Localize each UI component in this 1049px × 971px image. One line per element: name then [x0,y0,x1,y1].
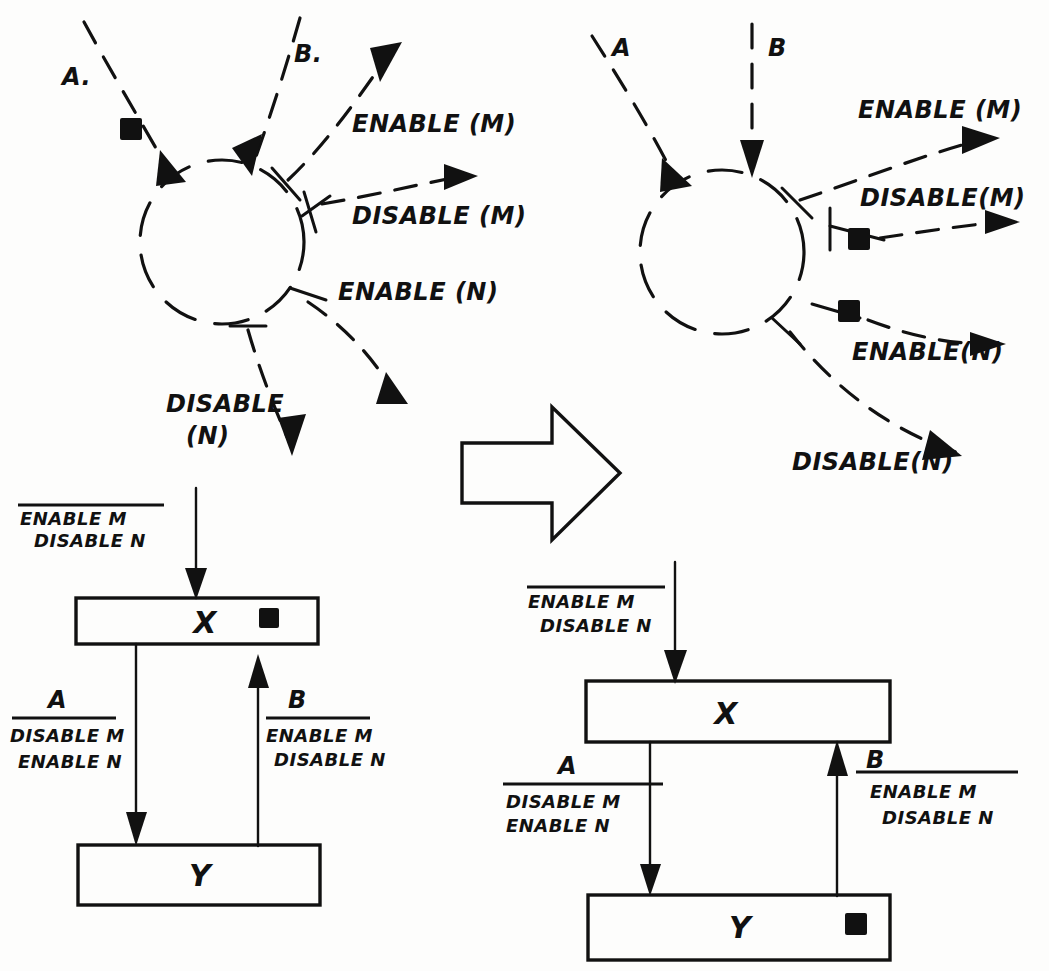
right-machine-entry-line2: DISABLE N [540,615,652,636]
right-machine-state-y-label: Y [729,910,754,945]
left-net-label-disable-n-2: (N) [186,422,230,450]
right-machine-transition-a [640,742,661,896]
left-net-label-disable-n: DISABLE [166,390,284,418]
right-net-input-arc-b [740,24,764,178]
right-net-input-arc-a [592,36,692,192]
right-net-place [640,170,804,334]
left-machine-state-x-label: X [191,605,218,640]
right-net-output-arc-disable-m [830,208,1020,250]
right-machine-transition-a-line2: ENABLE N [506,815,610,836]
right-net-label-disable-n: DISABLE(N) [792,448,954,476]
left-machine-transition-a-line1: DISABLE M [10,725,125,746]
left-net-label-disable-m: DISABLE (M) [352,202,526,230]
token-square [259,608,279,628]
diagram-canvas: A. B. ENABLE (M) DISABLE (M) EN [0,0,1049,971]
left-machine-transition-a-name: A [46,686,67,714]
right-machine-entry-line1: ENABLE M [528,591,635,612]
transform-arrow [462,407,620,540]
right-net-label-b: B [768,34,787,62]
right-machine-state-x: X [586,681,890,742]
left-net-label-a: A. [60,63,91,91]
left-machine-transition-b [248,654,269,846]
left-net-label-enable-n: ENABLE (N) [338,278,498,306]
left-machine-transition-a [126,644,147,846]
right-machine-transition-a-line1: DISABLE M [506,791,621,812]
token-square [838,300,860,322]
left-machine-entry-arrow [185,488,207,600]
left-machine-entry-line1: ENABLE M [20,508,127,529]
left-machine-transition-b-name: B [288,686,307,714]
diagram-svg: A. B. ENABLE (M) DISABLE (M) EN [0,0,1049,971]
token-square [848,228,870,250]
right-machine-transition-a-name: A [556,752,577,780]
left-net-label-enable-m: ENABLE (M) [352,110,516,138]
left-net-input-arc-b [232,18,300,176]
left-machine-state-y-label: Y [189,858,214,893]
right-machine-state-y: Y [588,895,890,960]
token-square [845,913,867,935]
right-machine-transition-b [827,740,848,896]
right-machine-transition-b-line2: DISABLE N [882,807,994,828]
right-machine-transition-b-line1: ENABLE M [870,781,977,802]
left-machine-entry-line2: DISABLE N [34,530,146,551]
right-net-label-enable-m: ENABLE (M) [858,96,1022,124]
left-machine-state-y: Y [78,845,320,905]
left-net-input-arc-a [84,22,186,186]
left-machine-transition-b-line2: DISABLE N [274,749,386,770]
left-machine-transition-b-line1: ENABLE M [266,725,373,746]
token-square [120,118,142,140]
right-machine-state-x-label: X [712,696,739,731]
right-machine-transition-b-name: B [866,746,885,774]
right-net-label-enable-n: ENABLE(N) [852,338,1004,366]
left-machine-state-x: X [76,598,318,644]
left-machine-transition-a-line2: ENABLE N [18,751,122,772]
right-net-label-a: A [610,34,631,62]
right-machine-entry-arrow [664,562,687,684]
left-net-label-b: B. [294,40,322,68]
right-net-label-disable-m: DISABLE(M) [860,184,1026,212]
